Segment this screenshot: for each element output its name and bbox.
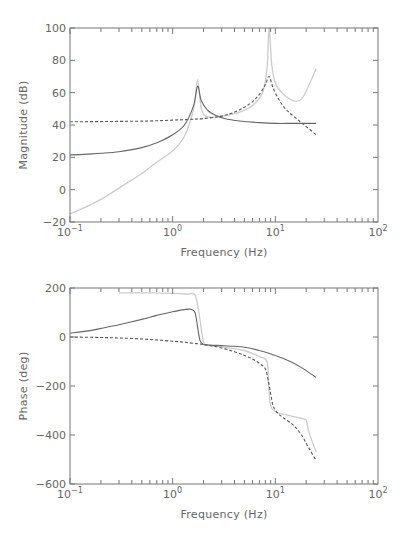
curve-light <box>119 293 316 452</box>
x-tick-label: 100 <box>163 486 182 501</box>
y-tick-label: 200 <box>45 282 66 295</box>
y-tick-label: 0 <box>59 331 66 344</box>
magnitude-ticks <box>70 28 378 222</box>
x-tick-label: 10−1 <box>57 224 83 239</box>
x-tick-label: 101 <box>266 224 285 239</box>
magnitude-plot: 100806040200−20 10−1100101102 Frequency … <box>17 22 388 259</box>
phase-x-tick-labels: 10−1100101102 <box>57 486 387 501</box>
x-tick-label: 102 <box>368 486 387 501</box>
y-tick-label: 60 <box>52 87 66 100</box>
x-tick-label: 101 <box>266 486 285 501</box>
y-tick-label: 40 <box>52 119 66 132</box>
curve-solid <box>70 309 316 377</box>
magnitude-curves <box>70 28 316 214</box>
magnitude-y-tick-labels: 100806040200−20 <box>43 22 66 229</box>
phase-y-axis-label: Phase (deg) <box>17 352 30 421</box>
y-tick-label: −200 <box>36 380 66 393</box>
y-tick-label: 20 <box>52 151 66 164</box>
bode-plot-figure: 100806040200−20 10−1100101102 Frequency … <box>0 0 408 548</box>
y-tick-label: 100 <box>45 22 66 35</box>
magnitude-x-axis-label: Frequency (Hz) <box>180 246 267 259</box>
phase-curves <box>70 293 316 461</box>
curve-solid <box>70 86 316 155</box>
magnitude-axes-frame <box>70 28 378 222</box>
y-tick-label: 80 <box>52 54 66 67</box>
y-tick-label: 0 <box>59 184 66 197</box>
magnitude-y-axis-label: Magnitude (dB) <box>17 80 30 169</box>
phase-x-axis-label: Frequency (Hz) <box>180 508 267 521</box>
x-tick-label: 100 <box>163 224 182 239</box>
phase-ticks <box>70 288 378 484</box>
phase-y-tick-labels: 2000−200−400−600 <box>36 282 66 491</box>
y-tick-label: −400 <box>36 429 66 442</box>
phase-plot: 2000−200−400−600 10−1100101102 Frequency… <box>17 282 388 521</box>
curve-dashed <box>70 337 316 461</box>
phase-axes-frame <box>70 288 378 484</box>
x-tick-label: 102 <box>368 224 387 239</box>
x-tick-label: 10−1 <box>57 486 83 501</box>
magnitude-x-tick-labels: 10−1100101102 <box>57 224 387 239</box>
curve-light <box>70 28 316 214</box>
